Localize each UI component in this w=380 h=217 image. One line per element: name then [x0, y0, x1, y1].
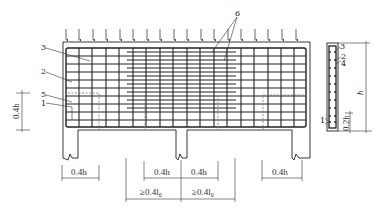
- dim-left-support-label: 0.4h: [71, 167, 87, 177]
- callout-3: 3: [41, 43, 46, 52]
- callout-1: 1: [41, 99, 46, 108]
- dims-row-1: [62, 158, 302, 202]
- dim-center-left-label: 0.4h: [154, 167, 170, 177]
- dim-span-right-label: ≥0.4l0: [192, 187, 214, 198]
- dim-span-left-label: ≥0.4l0: [140, 187, 162, 198]
- section-callout-1: 1: [320, 116, 325, 125]
- dim-right-support-label: 0.4h: [272, 167, 288, 177]
- callout-5: 5: [41, 90, 46, 99]
- callout-2: 2: [41, 67, 46, 76]
- dim-center-right-label: 0.4h: [191, 167, 207, 177]
- load-arrows: [66, 29, 296, 40]
- dim-left-height-label: 0.4h: [11, 103, 21, 119]
- callout-6: 6: [235, 9, 240, 18]
- section-callout-3: 3: [340, 42, 345, 51]
- deep-beam-diagram: 3 2 5 1 6 0.4h 0.4h 0.4h 0.4h 0.4h ≥0.4l…: [0, 0, 380, 217]
- section-bottom-label: 0.2h: [341, 115, 351, 131]
- horizontal-rebars: [66, 56, 306, 120]
- section-view: 3 2 4 1 h 0.2h: [320, 41, 372, 133]
- section-height-label: h: [355, 90, 365, 95]
- section-callout-4: 4: [341, 59, 346, 68]
